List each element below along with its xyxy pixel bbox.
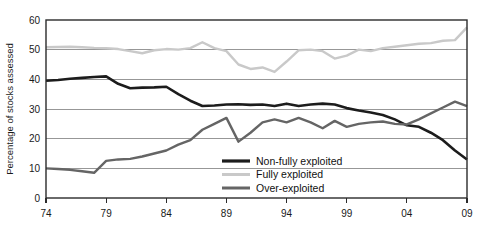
x-tick-label-99: 99 [341,208,353,219]
line-chart: 0102030405060 7479848994990409 Percentag… [0,0,490,236]
x-tick-label-74: 74 [40,208,52,219]
x-tick-label-89: 89 [221,208,233,219]
legend-label-1: Fully exploited [256,168,323,180]
legend-label-0: Non-fully exploited [256,155,343,167]
chart-figure: 0102030405060 7479848994990409 Percentag… [0,0,490,236]
y-axis-tick-labels: 0102030405060 [29,15,41,204]
legend-label-2: Over-exploited [256,182,324,194]
y-tick-label-10: 10 [29,163,41,174]
y-axis-title: Percentage of stocks assessed [4,43,15,175]
x-tick-label-09: 09 [461,208,473,219]
x-tick-label-79: 79 [101,208,113,219]
y-tick-label-50: 50 [29,44,41,55]
x-tick-label-94: 94 [281,208,293,219]
x-tick-label-84: 84 [161,208,173,219]
x-tick-label-04: 04 [401,208,413,219]
y-tick-label-0: 0 [34,193,40,204]
y-tick-label-30: 30 [29,104,41,115]
y-tick-label-40: 40 [29,74,41,85]
x-axis-ticks [46,198,467,203]
y-tick-label-60: 60 [29,15,41,26]
y-tick-label-20: 20 [29,133,41,144]
x-axis-tick-labels: 7479848994990409 [40,208,473,219]
